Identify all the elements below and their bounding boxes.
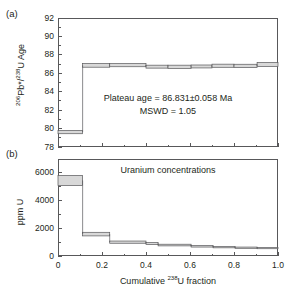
panel-a-y-tick <box>58 110 62 111</box>
panel-a-y-tick <box>58 128 62 129</box>
figure-container: (a) 206Pb*/238U Age (b) ppm U Plateau ag… <box>0 0 291 296</box>
panel-a-x-tick <box>190 143 191 147</box>
panel-a-x-minor-tick <box>124 145 125 148</box>
step-box <box>158 244 191 246</box>
panel-b-x-minor-tick <box>256 254 257 257</box>
panel-b-y-tick-label: 2000 <box>18 223 54 233</box>
step-box <box>235 247 257 248</box>
panel-a-y-minor-tick <box>58 82 61 83</box>
panel-b-x-tick <box>234 252 235 256</box>
mswd-annotation: MSWD = 1.05 <box>58 106 278 116</box>
panel-a-y-tick <box>58 18 62 19</box>
panel-a-y-minor-tick <box>58 27 61 28</box>
panel-a-y-tick-label: 78 <box>28 142 54 152</box>
step-box <box>146 243 158 245</box>
panel-a-x-tick <box>278 143 279 147</box>
panel-a-y-tick-label: 82 <box>28 105 54 115</box>
panel-a-x-tick <box>234 143 235 147</box>
panel-b-x-tick-label: 0.6 <box>176 260 204 270</box>
panel-b-x-tick-label: 0 <box>44 260 72 270</box>
panel-b-y-tick <box>58 228 62 229</box>
panel-b-y-minor-tick <box>58 186 61 187</box>
step-box <box>213 246 235 247</box>
panel-b-x-tick <box>102 252 103 256</box>
panel-b-y-minor-tick <box>58 242 61 243</box>
panel-b-x-minor-tick <box>124 254 125 257</box>
panel-b-x-minor-tick <box>80 254 81 257</box>
panel-a-x-minor-tick <box>80 145 81 148</box>
panel-b-x-tick-label: 0.4 <box>132 260 160 270</box>
panel-a-y-minor-tick <box>58 137 61 138</box>
x-axis-title: Cumulative 238U fraction <box>58 276 278 286</box>
step-box <box>110 241 146 243</box>
panel-a-y-tick-label: 88 <box>28 49 54 59</box>
panel-b-x-tick-label: 1.0 <box>264 260 291 270</box>
panel-a-y-tick-label: 92 <box>28 13 54 23</box>
panel-a-y-tick <box>58 147 62 148</box>
panel-a-x-tick <box>146 143 147 147</box>
panel-b-y-tick <box>58 200 62 201</box>
panel-b-x-tick <box>58 252 59 256</box>
panel-b-x-tick <box>146 252 147 256</box>
panel-a-y-tick <box>58 73 62 74</box>
panel-b-x-minor-tick <box>212 254 213 257</box>
panel-a-y-tick <box>58 54 62 55</box>
panel-a-x-minor-tick <box>212 145 213 148</box>
panel-a-y-minor-tick <box>58 64 61 65</box>
panel-b-x-tick <box>190 252 191 256</box>
step-box <box>83 232 110 236</box>
panel-a-x-minor-tick <box>256 145 257 148</box>
panel-b-y-minor-tick <box>58 214 61 215</box>
panel-a-y-tick-label: 90 <box>28 31 54 41</box>
uranium-concentrations-title: Uranium concentrations <box>58 165 278 175</box>
panel-a-y-tick-label: 84 <box>28 86 54 96</box>
panel-b-y-minor-tick <box>58 159 61 160</box>
panel-b-x-minor-tick <box>168 254 169 257</box>
panel-b-y-tick-label: 0 <box>18 251 54 261</box>
plateau-age-annotation: Plateau age = 86.831±0.058 Ma <box>58 93 278 103</box>
panel-a-x-tick <box>58 143 59 147</box>
panel-b-y-tick <box>58 172 62 173</box>
panel-a-y-minor-tick <box>58 100 61 101</box>
panel-a-y-tick-label: 80 <box>28 123 54 133</box>
panel-b-x-tick <box>278 252 279 256</box>
panel-b-x-tick-label: 0.2 <box>88 260 116 270</box>
panel-a-y-minor-tick <box>58 45 61 46</box>
step-box <box>191 246 213 248</box>
panel-b-x-tick-label: 0.8 <box>220 260 248 270</box>
panel-a-x-minor-tick <box>168 145 169 148</box>
panel-a-x-tick <box>102 143 103 147</box>
step-box <box>257 247 278 248</box>
panel-a-y-tick <box>58 91 62 92</box>
panel-b-y-tick <box>58 256 62 257</box>
panel-b-y-tick-label: 4000 <box>18 195 54 205</box>
step-box <box>58 175 83 185</box>
panel-a-y-tick-label: 86 <box>28 68 54 78</box>
panel-b-y-tick-label: 6000 <box>18 167 54 177</box>
panel-a-y-minor-tick <box>58 119 61 120</box>
panel-a-y-tick <box>58 36 62 37</box>
